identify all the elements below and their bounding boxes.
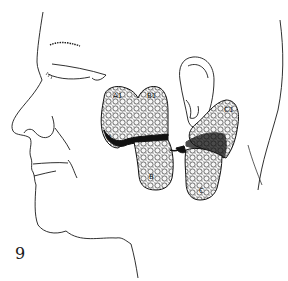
label-b1: B1	[147, 92, 156, 100]
gland-lobes	[101, 86, 238, 200]
figure-number: 9	[15, 246, 25, 262]
anatomical-figure: A1 B1 B C1 C A 9	[0, 0, 288, 281]
label-c1: C1	[224, 106, 233, 114]
label-c: C	[199, 187, 204, 195]
label-a: A	[107, 134, 112, 142]
label-a1: A1	[113, 92, 122, 100]
face-illustration: A1 B1 B C1 C A	[0, 0, 288, 281]
lobe-b	[134, 140, 173, 190]
label-b: B	[149, 173, 154, 181]
